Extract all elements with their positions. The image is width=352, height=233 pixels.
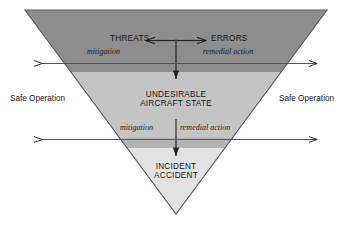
label-remedial-action-upper: remedial action <box>203 48 253 57</box>
node-threats: THREATS <box>110 35 149 44</box>
triangle-graphic <box>0 0 352 233</box>
label-mitigation-lower: mitigation <box>120 124 153 133</box>
label-safe-operation-left: Safe Operation <box>10 95 65 104</box>
triangle-bands <box>0 0 352 233</box>
label-mitigation-upper: mitigation <box>87 48 120 57</box>
node-incident-accident: INCIDENT ACCIDENT <box>154 163 198 181</box>
label-safe-operation-right: Safe Operation <box>279 95 334 104</box>
node-undesirable-line-2: AIRCRAFT STATE <box>140 100 212 109</box>
label-remedial-action-lower: remedial action <box>180 124 230 133</box>
node-undesirable-aircraft-state: UNDESIRABLE AIRCRAFT STATE <box>140 91 212 109</box>
node-incident-line-2: ACCIDENT <box>154 172 198 181</box>
node-errors: ERRORS <box>211 35 248 44</box>
band-incident-accident <box>0 148 352 233</box>
diagram-canvas: THREATS ERRORS mitigation remedial actio… <box>0 0 352 233</box>
